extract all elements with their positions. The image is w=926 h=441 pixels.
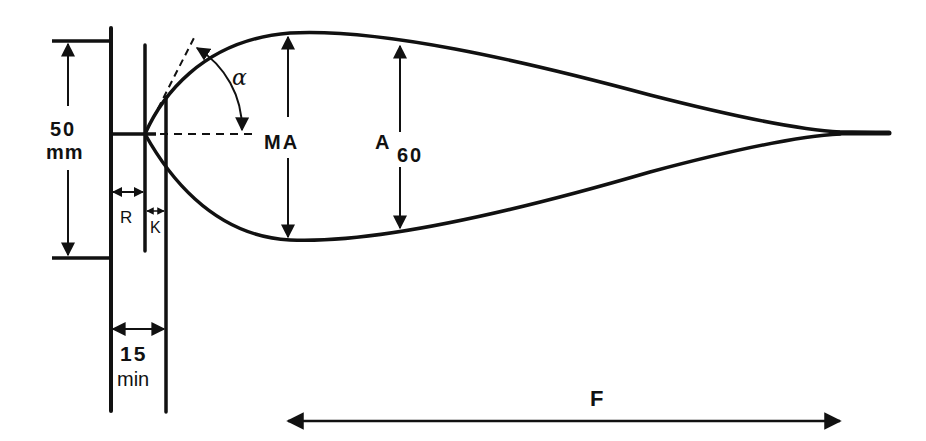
a60-label-main: A: [375, 132, 389, 152]
time-value-label: 15: [120, 343, 147, 364]
a60-label-sub: 60: [397, 145, 423, 165]
alpha-label: α: [232, 67, 247, 89]
ma-label: MA: [264, 132, 299, 152]
r-label: R: [120, 209, 132, 226]
height-unit-label: mm: [46, 142, 84, 162]
trace-envelope: [145, 32, 888, 240]
thromboelastogram-diagram: 50 mm R K 15 min α MA A 60 F: [0, 0, 926, 441]
height-value-label: 50: [50, 119, 76, 139]
f-label: F: [590, 388, 603, 410]
k-label: K: [150, 220, 161, 236]
time-unit-label: min: [117, 369, 149, 389]
